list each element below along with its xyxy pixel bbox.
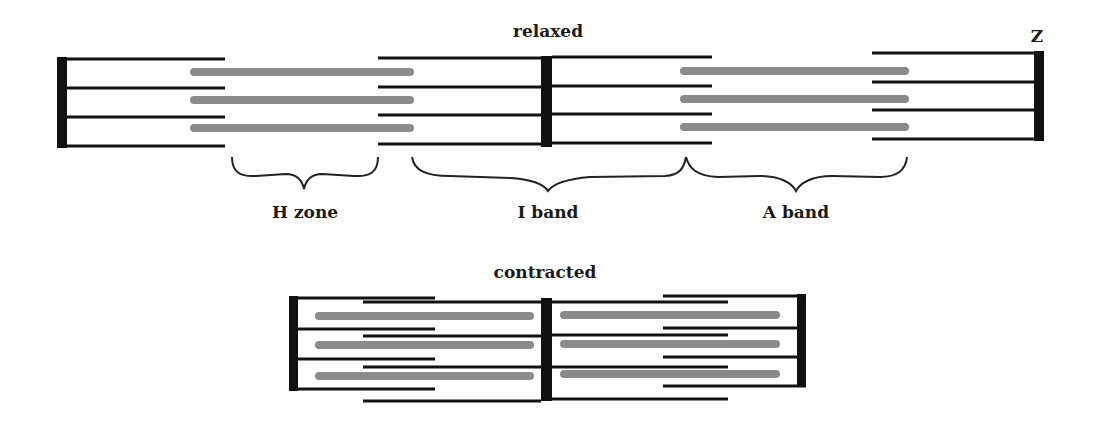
a-band-label: A band (762, 202, 829, 222)
i-band-label: I band (517, 202, 578, 222)
contracted-sarcomere (289, 294, 806, 401)
relaxed-title: relaxed (513, 21, 583, 41)
z-disc-left (57, 57, 67, 148)
myosin-filaments-right (684, 71, 905, 127)
myosin-filaments-left (194, 72, 410, 128)
z-disc-middle (541, 56, 552, 147)
i-band-brace (412, 157, 686, 191)
sarcomere-diagram: relaxed Z (0, 0, 1100, 433)
band-braces (232, 157, 907, 191)
myosin-contracted-right (564, 315, 776, 374)
z-disc-left-contracted (289, 296, 298, 391)
z-disc-right-contracted (797, 294, 806, 387)
h-zone-label: H zone (272, 202, 338, 222)
z-line-label: Z (1031, 26, 1043, 46)
relaxed-sarcomere (57, 51, 1044, 148)
h-zone-brace (232, 157, 378, 189)
z-disc-right (1034, 51, 1044, 141)
a-band-brace (686, 157, 907, 191)
contracted-title: contracted (494, 262, 597, 282)
z-disc-middle-contracted (541, 298, 552, 401)
